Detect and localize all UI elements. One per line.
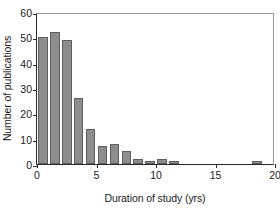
y-tick-mark bbox=[33, 141, 37, 142]
x-tick-label: 15 bbox=[202, 169, 230, 182]
x-tick-mark bbox=[97, 164, 98, 168]
y-tick-label: 20 bbox=[6, 108, 32, 121]
x-tick-mark bbox=[275, 164, 276, 168]
plot-inner: 0102030405060 05101520 bbox=[37, 14, 273, 164]
histogram-bar bbox=[50, 32, 60, 164]
y-tick-mark bbox=[33, 90, 37, 91]
histogram-bar bbox=[110, 144, 120, 164]
x-tick-label: 5 bbox=[83, 169, 111, 182]
histogram-bar bbox=[133, 159, 143, 164]
x-tick-mark bbox=[37, 164, 38, 168]
x-tick-mark bbox=[156, 164, 157, 168]
y-tick-mark bbox=[33, 65, 37, 66]
plot-area: 0102030405060 05101520 bbox=[36, 13, 274, 165]
x-tick-label: 10 bbox=[142, 169, 170, 182]
y-tick-label: 10 bbox=[6, 134, 32, 147]
y-tick-label: 50 bbox=[6, 32, 32, 45]
x-tick-label: 20 bbox=[261, 169, 280, 182]
y-tick-label: 60 bbox=[6, 7, 32, 20]
histogram-bar bbox=[169, 161, 179, 164]
x-tick-mark bbox=[216, 164, 217, 168]
histogram-bar bbox=[86, 129, 96, 164]
y-tick-mark bbox=[33, 14, 37, 15]
x-axis-title: Duration of study (yrs) bbox=[36, 192, 274, 204]
x-tick-label: 0 bbox=[23, 169, 51, 182]
histogram-bar bbox=[62, 40, 72, 164]
y-tick-mark bbox=[33, 39, 37, 40]
histogram-bar bbox=[74, 98, 84, 164]
y-tick-label: 40 bbox=[6, 58, 32, 71]
y-tick-label: 30 bbox=[6, 83, 32, 96]
histogram-bar bbox=[252, 161, 262, 164]
histogram-bar bbox=[122, 151, 132, 164]
histogram-bar bbox=[145, 161, 155, 164]
y-tick-mark bbox=[33, 115, 37, 116]
histogram-bar bbox=[157, 159, 167, 164]
histogram-bar bbox=[98, 146, 108, 164]
histogram-figure: Number of publications 0102030405060 051… bbox=[0, 0, 280, 211]
histogram-bar bbox=[38, 37, 48, 164]
